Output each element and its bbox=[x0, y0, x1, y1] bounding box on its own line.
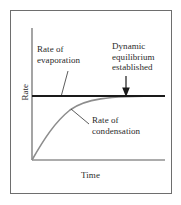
dynamic-equilibrium-arrow-icon bbox=[122, 76, 130, 97]
x-axis-label: Time bbox=[0, 170, 181, 181]
annotation-rate-of-condensation: Rate of condensation bbox=[92, 115, 140, 136]
evaporation-leader-line bbox=[62, 71, 69, 95]
annotation-dynamic-equilibrium-established: Dynamic equilibrium established bbox=[112, 41, 155, 73]
chart-figure: Rate of evaporation Dynamic equilibrium … bbox=[0, 0, 181, 205]
condensation-leader-line bbox=[71, 109, 89, 124]
annotation-rate-of-evaporation: Rate of evaporation bbox=[37, 44, 80, 65]
y-axis-label: Rate bbox=[20, 75, 31, 109]
